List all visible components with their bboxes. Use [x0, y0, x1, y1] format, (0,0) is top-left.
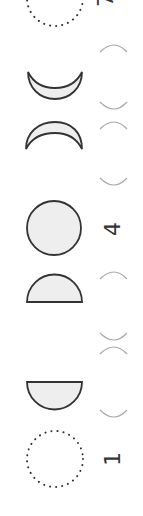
full-moon-icon — [27, 201, 81, 255]
faint-arc-icon — [100, 272, 127, 279]
label-bottom: 1 — [100, 452, 125, 466]
faint-arc-icon — [100, 122, 127, 129]
crescent-upper-icon — [26, 122, 82, 149]
faint-arc-icon — [100, 410, 127, 417]
new-moon-bottom-icon — [27, 431, 83, 487]
faint-arc-icon — [100, 178, 127, 185]
moon-phase-diagram: 7 4 1 — [0, 0, 143, 516]
faint-arc-icon — [100, 102, 127, 109]
label-middle: 4 — [100, 222, 125, 236]
faint-arc-icon — [100, 333, 127, 340]
half-moon-upper-icon — [27, 275, 82, 302]
new-moon-top-icon — [27, 0, 83, 26]
half-moon-lower-icon — [27, 382, 82, 410]
faint-arc-icon — [100, 45, 127, 52]
crescent-lower-icon — [28, 72, 82, 99]
faint-arc-icon — [100, 347, 127, 354]
label-top: 7 — [93, 0, 118, 7]
